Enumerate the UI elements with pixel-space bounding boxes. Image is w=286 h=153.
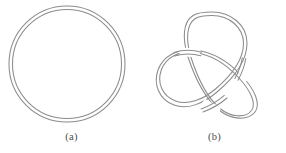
caption-a: (a) [0, 130, 143, 144]
unknot-inner-circle [13, 10, 122, 119]
trefoil-crossing-upper-left [174, 50, 202, 56]
trefoil-band [156, 12, 257, 118]
figure-panel-a: (a) [0, 0, 143, 153]
trefoil-diagram [143, 0, 286, 130]
knot-figure: (a) [0, 0, 286, 153]
unknot-band [9, 6, 125, 122]
unknot-diagram [0, 0, 143, 130]
unknot-outer-circle [9, 6, 125, 122]
caption-b: (b) [143, 130, 286, 144]
trefoil-crossing-bottom [201, 95, 227, 112]
figure-panel-b: (b) [143, 0, 286, 153]
